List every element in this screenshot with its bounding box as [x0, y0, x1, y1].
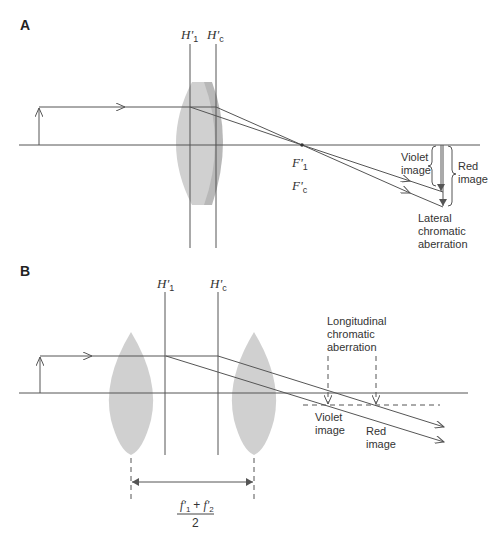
red-image-label-a: Red image — [458, 160, 488, 185]
hc-label-a: H'c — [206, 27, 224, 44]
f1-label-a: F'1 — [291, 155, 308, 172]
focal-point-a — [300, 143, 304, 147]
lateral-aberration-label: Lateral chromatic aberration — [418, 212, 469, 250]
violet-ray-b — [166, 356, 444, 442]
panel-b-label: B — [20, 263, 30, 279]
fc-label-a: F'c — [291, 178, 308, 195]
svg-text:2: 2 — [192, 516, 199, 530]
panel-a-label: A — [20, 17, 30, 33]
chromatic-aberration-diagram: A H'1 H'c F'1 F'c — [0, 0, 501, 545]
svg-text:f'1+f'2: f'1+f'2 — [180, 498, 214, 514]
red-ray-a — [216, 107, 302, 145]
h1-label-a: H'1 — [180, 27, 198, 44]
h1-label-b: H'1 — [156, 276, 174, 293]
longitudinal-aberration-label: Longitudinal chromatic aberration — [327, 315, 389, 353]
red-brace-a — [448, 146, 456, 206]
panel-a: A H'1 H'c F'1 F'c — [19, 17, 488, 250]
hc-label-b: H'c — [209, 276, 227, 293]
red-image-label-b: Red image — [366, 425, 396, 450]
violet-image-label-b: Violet image — [315, 411, 345, 436]
panel-b: B H'1 H'c Longitudinal chromatic aberrat… — [19, 263, 468, 530]
separation-formula: f'1+f'2 2 — [177, 498, 214, 530]
violet-image-label-a: Violet image — [401, 151, 431, 176]
